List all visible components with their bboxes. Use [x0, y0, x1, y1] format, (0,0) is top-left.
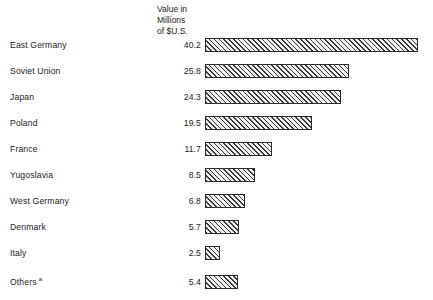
bar-track	[205, 220, 239, 234]
value-label: 40.2	[143, 35, 201, 55]
bar	[205, 246, 220, 260]
category-label: Yugoslavia	[10, 165, 53, 185]
value-label: 19.5	[143, 113, 201, 133]
chart-row: East Germany40.2	[0, 35, 433, 55]
bar-track	[205, 246, 220, 260]
category-label: France	[10, 139, 38, 159]
category-label: Italy	[10, 243, 27, 263]
bar	[205, 220, 239, 234]
bar	[205, 168, 255, 182]
bar-track	[205, 168, 255, 182]
category-label: East Germany	[10, 35, 67, 55]
chart-row: Yugoslavia8.5	[0, 165, 433, 185]
category-label: Poland	[10, 113, 38, 133]
bar-track	[205, 90, 341, 104]
chart-row: Soviet Union25.8	[0, 61, 433, 81]
bar	[205, 38, 418, 52]
category-label: Soviet Union	[10, 61, 61, 81]
value-label: 11.7	[143, 139, 201, 159]
bar	[205, 194, 245, 208]
category-label: Denmark	[10, 217, 46, 237]
bar	[205, 275, 238, 289]
value-label: 6.8	[143, 191, 201, 211]
category-label: Japan	[10, 87, 34, 107]
bar	[205, 90, 341, 104]
horizontal-bar-chart: Value in Millions of $U.S. East Germany4…	[0, 0, 433, 300]
value-label: 24.3	[143, 87, 201, 107]
bar	[205, 142, 272, 156]
bar-track	[205, 38, 418, 52]
value-column-header: Value in Millions of $U.S.	[157, 4, 203, 38]
chart-row: Italy2.5	[0, 243, 433, 263]
chart-row: West Germany6.8	[0, 191, 433, 211]
category-label: West Germany	[10, 191, 69, 211]
chart-row: France11.7	[0, 139, 433, 159]
category-label: Othersa	[10, 272, 42, 292]
value-label: 2.5	[143, 243, 201, 263]
chart-row: Poland19.5	[0, 113, 433, 133]
bar-track	[205, 275, 238, 289]
chart-row: Denmark5.7	[0, 217, 433, 237]
value-label: 25.8	[143, 61, 201, 81]
footnote-marker: a	[39, 276, 43, 282]
bar-track	[205, 142, 272, 156]
bar-track	[205, 64, 349, 78]
bar-track	[205, 116, 312, 130]
bar	[205, 64, 349, 78]
bar-track	[205, 194, 245, 208]
value-header-line-1: Value in	[157, 4, 203, 15]
value-label: 5.7	[143, 217, 201, 237]
value-label: 8.5	[143, 165, 201, 185]
chart-row: Japan24.3	[0, 87, 433, 107]
value-header-line-2: Millions	[157, 15, 203, 26]
chart-row: Othersa5.4	[0, 272, 433, 292]
value-label: 5.4	[143, 272, 201, 292]
bar	[205, 116, 312, 130]
